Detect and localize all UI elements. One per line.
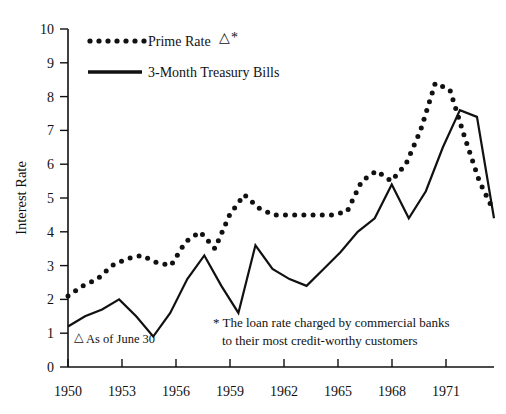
- legend-dotted-swatch: [87, 38, 146, 43]
- footnote-line-2: to their most credit-worthy customers: [222, 333, 418, 348]
- y-tick-label: 6: [47, 157, 54, 172]
- y-tick-label: 8: [47, 90, 54, 105]
- y-tick-label: 2: [47, 292, 54, 307]
- x-tick-label: 1965: [324, 384, 352, 399]
- y-tick-label: 7: [47, 123, 54, 138]
- x-axis-ticks: [68, 359, 446, 367]
- as-of-note: △ As of June 30: [74, 330, 155, 346]
- legend-label-prime-rate: Prime Rate: [148, 34, 211, 49]
- legend-label-treasury-bills: 3-Month Treasury Bills: [148, 65, 279, 80]
- y-axis-ticks: [60, 29, 68, 367]
- x-tick-label: 1956: [162, 384, 190, 399]
- y-tick-label: 5: [47, 191, 54, 206]
- y-tick-label: 9: [47, 56, 54, 71]
- chart-legend: Prime Rate △ * 3-Month Treasury Bills: [87, 30, 279, 80]
- x-tick-label: 1971: [432, 384, 460, 399]
- y-axis-tick-labels: 10 9 8 7 6 5 4 3 2 1 0: [40, 22, 54, 375]
- interest-rate-chart: 10 9 8 7 6 5 4 3 2 1 0 Interest Rate: [0, 0, 506, 414]
- y-tick-label: 0: [47, 360, 54, 375]
- y-tick-label: 10: [40, 22, 54, 37]
- y-axis-title: Interest Rate: [13, 161, 29, 235]
- y-tick-label: 4: [47, 225, 54, 240]
- footnote-line-1: * The loan rate charged by commercial ba…: [213, 315, 450, 330]
- x-tick-label: 1953: [108, 384, 136, 399]
- x-tick-label: 1950: [54, 384, 82, 399]
- as-of-label: As of June 30: [86, 332, 155, 346]
- x-tick-label: 1968: [378, 384, 406, 399]
- y-tick-label: 3: [47, 259, 54, 274]
- series-dots-prime-rate: [66, 82, 493, 299]
- x-tick-label: 1962: [270, 384, 298, 399]
- chart-canvas: 10 9 8 7 6 5 4 3 2 1 0 Interest Rate: [0, 0, 506, 414]
- x-axis-tick-labels: 1950 1953 1956 1959 1962 1965 1968 1971: [54, 384, 460, 399]
- series-line-treasury-bills: [68, 110, 494, 336]
- legend-star-marker: *: [231, 30, 238, 45]
- x-tick-label: 1959: [216, 384, 244, 399]
- as-of-triangle-icon: △: [74, 330, 84, 344]
- legend-triangle-marker: △: [219, 30, 230, 45]
- y-tick-label: 1: [47, 326, 54, 341]
- footnote: * The loan rate charged by commercial ba…: [213, 315, 450, 348]
